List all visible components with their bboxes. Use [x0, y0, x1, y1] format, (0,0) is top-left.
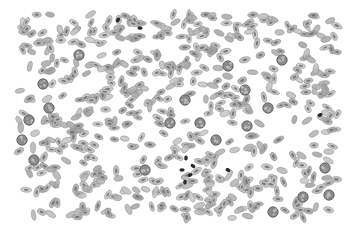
nucleated-cell-layer	[17, 50, 334, 217]
erythrocyte-layer	[13, 8, 343, 223]
blood-smear-field	[0, 0, 358, 230]
microscopy-image	[0, 0, 358, 230]
